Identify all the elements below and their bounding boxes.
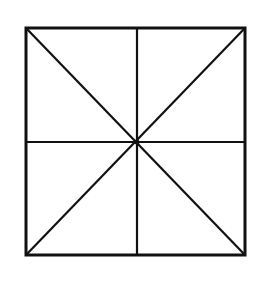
square-diagram [0, 0, 261, 281]
center-point [135, 140, 140, 145]
